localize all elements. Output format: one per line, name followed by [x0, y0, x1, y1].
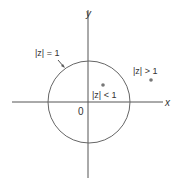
inside-region-label: |z| < 1 [92, 90, 116, 100]
inside-point [101, 83, 105, 87]
circle-label: |z| = 1 [35, 48, 59, 58]
outside-region-label: |z| > 1 [133, 66, 157, 76]
y-axis-label: y [85, 8, 92, 19]
unit-circle-diagram: y x 0 |z| = 1 |z| < 1 |z| > 1 [0, 0, 182, 190]
x-axis-label: x [164, 97, 171, 108]
origin-label: 0 [78, 106, 84, 117]
outside-point [149, 78, 153, 82]
